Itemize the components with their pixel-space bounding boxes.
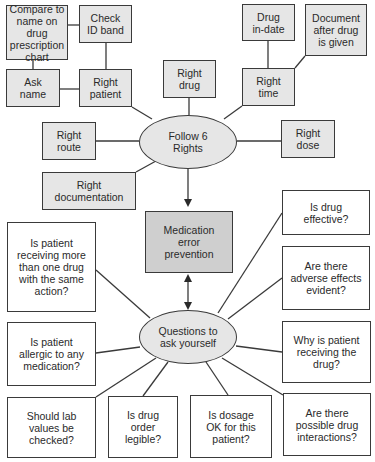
right-route-box: Right route (42, 122, 96, 160)
question-dosage-ok: Is dosage OK for this patient? (190, 395, 272, 458)
follow-6-rights-label: Follow 6 Rights (168, 130, 207, 154)
right-drug-label: Right drug (177, 67, 202, 91)
question-lab-values: Should lab values be checked? (7, 397, 96, 458)
question-order-legible: Is drug order legible? (108, 396, 178, 458)
right-documentation-box: Right documentation (42, 172, 136, 210)
compare-name-box: Compare to name on drug prescription cha… (6, 5, 68, 60)
question-why-receiving: Why is patient receiving the drug? (282, 321, 371, 383)
right-dose-box: Right dose (281, 120, 335, 158)
question-drug-interactions: Are there possible drug interactions? (283, 393, 371, 456)
question-drug-effective: Is drug effective? (282, 190, 370, 235)
question-label: Are there possible drug interactions? (296, 407, 358, 443)
question-label: Is drug order legible? (125, 409, 161, 445)
right-drug-box: Right drug (163, 60, 216, 98)
right-patient-label: Right patient (90, 76, 122, 100)
document-after-drug-box: Document after drug is given (305, 4, 367, 56)
right-time-box: Right time (242, 68, 295, 106)
right-dose-label: Right dose (296, 127, 321, 151)
medication-error-prevention-box: Medication error prevention (145, 211, 233, 273)
check-id-band-box: Check ID band (79, 5, 132, 43)
question-label: Why is patient receiving the drug? (294, 334, 360, 370)
question-label: Is drug effective? (304, 201, 349, 225)
question-label: Is patient receiving more than one drug … (17, 237, 86, 297)
question-allergic: Is patient allergic to any medication? (7, 322, 96, 386)
question-more-than-one-drug: Is patient receiving more than one drug … (7, 222, 96, 312)
medication-error-prevention-label: Medication error prevention (164, 224, 215, 260)
document-after-drug-label: Document after drug is given (312, 12, 360, 48)
medication-error-prevention-diagram: Compare to name on drug prescription cha… (0, 0, 375, 462)
question-label: Is patient allergic to any medication? (19, 336, 84, 372)
ask-name-label: Ask name (20, 76, 46, 100)
right-documentation-label: Right documentation (55, 179, 124, 203)
compare-name-label: Compare to name on drug prescription cha… (9, 3, 65, 63)
right-route-label: Right route (57, 129, 82, 153)
drug-in-date-label: Drug in-date (252, 11, 284, 35)
questions-hub-label: Questions to ask yourself (159, 325, 218, 349)
question-label: Are there adverse effects evident? (290, 260, 361, 296)
drug-in-date-box: Drug in-date (242, 4, 295, 41)
check-id-band-label: Check ID band (87, 12, 124, 36)
questions-hub: Questions to ask yourself (139, 310, 237, 364)
question-label: Is dosage OK for this patient? (206, 409, 256, 445)
right-time-label: Right time (256, 75, 281, 99)
question-label: Should lab values be checked? (27, 410, 77, 446)
follow-6-rights-hub: Follow 6 Rights (139, 115, 237, 169)
right-patient-box: Right patient (79, 69, 132, 107)
ask-name-box: Ask name (6, 69, 60, 107)
question-adverse-effects: Are there adverse effects evident? (282, 246, 370, 310)
